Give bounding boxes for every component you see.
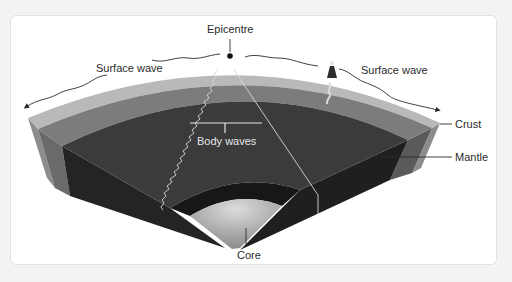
mantle-label: Mantle	[455, 152, 488, 163]
surface-wave-right-label: Surface wave	[361, 65, 428, 76]
surface-wave-left-label: Surface wave	[96, 63, 163, 74]
surface-wave-right-upper	[245, 55, 318, 66]
crust-label: Crust	[455, 119, 481, 130]
core-label: Core	[237, 250, 261, 261]
epicentre-dot-icon	[227, 53, 233, 59]
body-waves-label: Body waves	[197, 136, 256, 147]
epicentre-label: Epicentre	[207, 24, 253, 35]
surface-wave-left-upper	[152, 54, 220, 61]
